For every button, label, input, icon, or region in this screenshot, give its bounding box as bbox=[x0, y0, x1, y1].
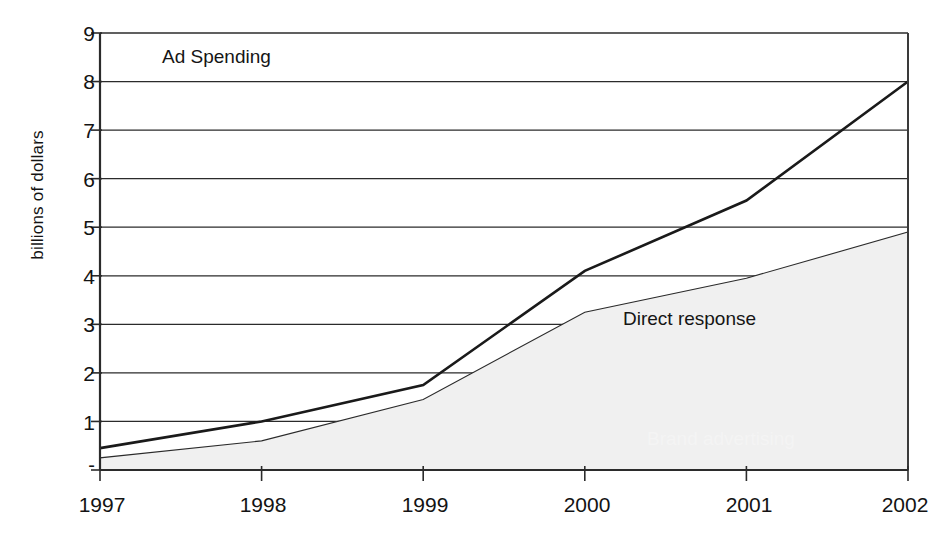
y-tick-label-4: 4 bbox=[55, 266, 95, 287]
y-tick-label-9: 9 bbox=[55, 23, 95, 44]
plot-title: Ad Spending bbox=[162, 46, 271, 68]
x-tick-label-2002: 2002 bbox=[860, 494, 945, 515]
x-tick-label-1997: 1997 bbox=[57, 494, 147, 515]
y-tick-label-3: 3 bbox=[55, 314, 95, 335]
y-tick-label-0: - bbox=[55, 455, 95, 475]
y-tick-label-1: 1 bbox=[55, 412, 95, 433]
y-tick-label-2: 2 bbox=[55, 363, 95, 384]
y-tick-label-5: 5 bbox=[55, 217, 95, 238]
area-chart: billions of dollars 9 8 7 6 5 4 3 2 1 - … bbox=[0, 0, 945, 541]
series-label-direct-response: Direct response bbox=[623, 308, 756, 330]
x-tick-label-1998: 1998 bbox=[218, 494, 308, 515]
y-tick-label-8: 8 bbox=[55, 71, 95, 92]
series-label-brand-advertising: Brand advertising bbox=[647, 428, 795, 450]
y-tick-label-7: 7 bbox=[55, 120, 95, 141]
x-tick-label-2001: 2001 bbox=[704, 494, 794, 515]
x-tick-label-2000: 2000 bbox=[542, 494, 632, 515]
y-axis-title: billions of dollars bbox=[28, 95, 48, 295]
x-tick-label-1999: 1999 bbox=[380, 494, 470, 515]
y-tick-label-6: 6 bbox=[55, 169, 95, 190]
plot-area bbox=[0, 0, 945, 541]
